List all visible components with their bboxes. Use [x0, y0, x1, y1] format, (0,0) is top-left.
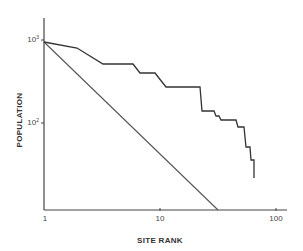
- x-tick-label-100: 100: [269, 214, 283, 223]
- rank-size-rule-line: [44, 42, 218, 210]
- y-axis-title: POPULATION: [15, 93, 24, 148]
- x-tick-label-10: 10: [156, 214, 165, 223]
- x-axis-title: SITE RANK: [137, 236, 183, 245]
- y-tick-label-100: 102: [27, 117, 39, 127]
- observed-rank-size-curve: [44, 42, 254, 178]
- x-tick-label-1: 1: [43, 214, 48, 223]
- rank-size-chart: 103 102 1 10 100 SITE RANK POPULATION: [0, 0, 303, 251]
- y-tick-label-1000: 103: [27, 34, 39, 44]
